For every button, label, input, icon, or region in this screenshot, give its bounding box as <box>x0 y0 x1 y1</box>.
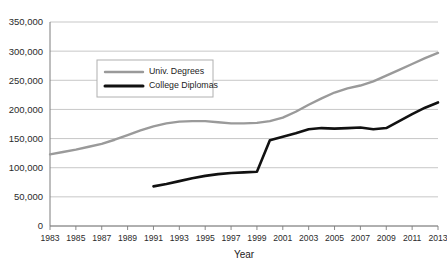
x-tick-label: 1987 <box>92 233 111 243</box>
x-tick-label: 2009 <box>377 233 396 243</box>
legend-label-2: College Diplomas <box>149 80 219 90</box>
x-tick-label: 2003 <box>299 233 318 243</box>
y-tick-label: 350,000 <box>9 16 43 27</box>
x-tick-label: 1989 <box>118 233 137 243</box>
x-tick-label: 2011 <box>403 233 422 243</box>
y-tick-label: 50,000 <box>14 191 43 202</box>
y-tick-label: 200,000 <box>9 104 43 115</box>
x-tick-label: 2001 <box>273 233 292 243</box>
y-tick-label: 150,000 <box>9 133 43 144</box>
x-tick-label: 1995 <box>196 233 215 243</box>
line-chart-figure: 050,000100,000150,000200,000250,000300,0… <box>0 0 447 269</box>
x-tick-label: 1999 <box>247 233 266 243</box>
x-tick-label: 1997 <box>222 233 241 243</box>
x-tick-label: 1993 <box>170 233 189 243</box>
chart-legend: Univ. DegreesCollege Diplomas <box>97 60 219 97</box>
chart-background <box>0 0 447 269</box>
x-tick-label: 2013 <box>428 233 447 243</box>
y-tick-label: 0 <box>38 220 43 231</box>
y-tick-label: 300,000 <box>9 46 43 57</box>
y-tick-label: 250,000 <box>9 75 43 86</box>
x-tick-label: 2007 <box>351 233 370 243</box>
x-axis-title: Year <box>234 249 255 260</box>
x-tick-label: 1983 <box>40 233 59 243</box>
x-tick-label: 1985 <box>66 233 85 243</box>
x-tick-label: 2005 <box>325 233 344 243</box>
x-tick-label: 1991 <box>144 233 163 243</box>
legend-label-1: Univ. Degrees <box>149 66 205 76</box>
chart-svg: 050,000100,000150,000200,000250,000300,0… <box>0 0 447 269</box>
y-tick-label: 100,000 <box>9 162 43 173</box>
